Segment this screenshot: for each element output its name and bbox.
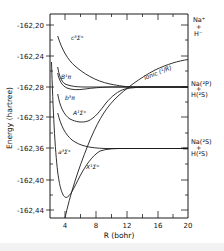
label-a3sigma: a³Σ⁺ [58,148,71,155]
asym-p-bottom: H(²S) [191,91,208,99]
y-tick-label: -162,20 [17,22,44,30]
asym-ionic-bottom: H⁻ [194,30,202,38]
label-c3sigma: c³Σ⁺ [71,34,84,41]
label-b3pi: b³π [65,94,75,101]
bottom-margin [0,243,224,251]
x-tick-labels: 4 8 12 16 20 [63,222,193,230]
label-X1sigma: X¹Σ⁺ [85,163,99,170]
curve-ionic [65,60,188,219]
x-tick-label: 4 [63,222,68,230]
y-tick-label: -162,44 [17,207,45,215]
x-tick-label: 8 [94,222,98,230]
y-tick-label: -162,36 [17,145,45,153]
y-tick-label: -162,24 [17,53,45,61]
asym-s-bottom: H(²S) [191,150,208,158]
label-ionic: ionic (¹/R) [143,63,173,80]
y-ticks [46,25,188,210]
curve-X1sigma [52,62,189,198]
x-axis-title: R (bohr) [104,231,135,240]
y-axis-title: Energy (hartree) [5,87,14,149]
state-labels: c³Σ⁺ B¹π b³π A¹Σ⁺ a³Σ⁺ X¹Σ⁺ ionic (¹/R) [58,34,173,170]
curves [52,36,189,218]
asymptote-labels: Na⁺ + H⁻ Na(²P) + H(²S) Na(²S) + H(²S) [191,16,212,158]
x-tick-label: 16 [154,222,163,230]
potential-energy-chart: -162,20 -162,24 -162,28 -162,32 -162,36 … [0,0,224,251]
plot-frame [50,14,188,218]
y-tick-label: -162,28 [17,84,44,92]
y-tick-label: -162,40 [17,177,44,185]
y-tick-label: -162,32 [17,114,44,122]
curve-a3sigma [58,113,188,149]
label-B1pi: B¹π [61,73,72,80]
y-tick-labels: -162,20 -162,24 -162,28 -162,32 -162,36 … [17,22,45,215]
label-A1sigma: A¹Σ⁺ [72,109,86,116]
curve-c3sigma [58,36,188,87]
x-tick-label: 12 [123,222,132,230]
x-ticks [65,14,173,218]
x-tick-label: 20 [184,222,193,230]
